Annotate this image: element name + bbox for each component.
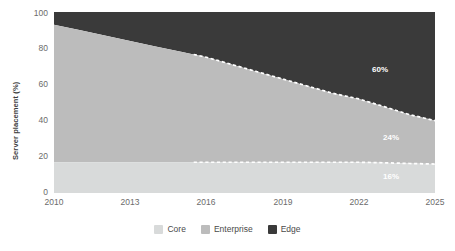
legend-label-enterprise: Enterprise — [214, 225, 253, 234]
y-axis-title: Server placement (%) — [11, 82, 20, 160]
x-tick-2010: 2010 — [34, 198, 74, 207]
area-series-svg — [54, 12, 435, 193]
stacked-area-chart: Server placement (%) 100 80 60 40 20 0 6… — [0, 0, 455, 251]
y-tick-20: 20 — [22, 152, 48, 161]
y-axis-ticks: 100 80 60 40 20 0 — [22, 0, 48, 251]
legend-label-edge: Edge — [281, 225, 301, 234]
legend-item-edge[interactable]: Edge — [268, 225, 301, 234]
chart-legend: Core Enterprise Edge — [0, 225, 455, 234]
y-tick-60: 60 — [22, 80, 48, 89]
legend-swatch-enterprise-icon — [201, 225, 210, 234]
value-label-enterprise: 24% — [383, 134, 399, 142]
y-tick-80: 80 — [22, 44, 48, 53]
legend-swatch-edge-icon — [268, 225, 277, 234]
x-tick-2025: 2025 — [415, 198, 455, 207]
plot-area: 60% 24% 16% — [54, 12, 435, 193]
area-core — [54, 162, 435, 193]
x-tick-2022: 2022 — [339, 198, 379, 207]
y-tick-40: 40 — [22, 116, 48, 125]
legend-item-core[interactable]: Core — [154, 225, 185, 234]
legend-item-enterprise[interactable]: Enterprise — [201, 225, 253, 234]
x-tick-2013: 2013 — [110, 198, 150, 207]
legend-swatch-core-icon — [154, 225, 163, 234]
x-tick-2016: 2016 — [186, 198, 226, 207]
value-label-core: 16% — [383, 173, 399, 181]
value-label-edge: 60% — [372, 66, 388, 74]
y-tick-100: 100 — [22, 9, 48, 18]
y-tick-0: 0 — [22, 188, 48, 197]
x-tick-2019: 2019 — [263, 198, 303, 207]
legend-label-core: Core — [167, 225, 185, 234]
